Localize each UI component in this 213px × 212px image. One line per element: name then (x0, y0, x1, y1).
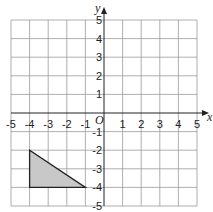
x-tick-label: 1 (120, 118, 126, 130)
y-axis-label: y (94, 1, 101, 15)
x-tick-label: 3 (157, 118, 163, 130)
y-tick-label: 3 (96, 51, 102, 63)
x-tick-label: -5 (6, 118, 16, 130)
x-tick-label: -2 (62, 118, 72, 130)
x-tick-label: 5 (194, 118, 200, 130)
y-tick-label: -2 (92, 144, 102, 156)
x-tick-label: -1 (81, 118, 91, 130)
y-tick-label: -3 (92, 163, 102, 175)
y-tick-label: 2 (96, 70, 102, 82)
x-axis-label: x (206, 110, 213, 124)
x-tick-label: -3 (43, 118, 53, 130)
y-tick-label: 5 (96, 14, 102, 26)
y-tick-label: 1 (96, 88, 102, 100)
x-tick-label: 4 (175, 118, 181, 130)
x-tick-label: 2 (138, 118, 144, 130)
y-tick-label: 4 (96, 33, 102, 45)
y-tick-label: -1 (92, 126, 102, 138)
x-tick-label: -4 (25, 118, 35, 130)
coordinate-grid: xyO-5-4-3-2-11234554321-1-2-3-4-5 (0, 0, 213, 212)
y-tick-label: -5 (92, 200, 102, 212)
y-axis-arrow-icon (101, 7, 107, 14)
y-tick-label: -4 (92, 181, 102, 193)
